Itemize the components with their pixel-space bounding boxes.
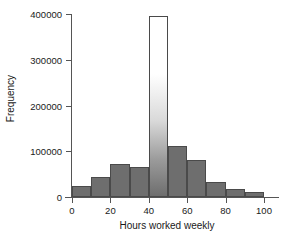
x-axis-tick-label: 20 [95,205,125,216]
x-axis-tick-mark [72,198,73,203]
histogram-bar [91,177,110,197]
x-axis-tick-mark [226,198,227,203]
histogram-bar [149,16,168,197]
histogram-bar [168,146,187,197]
y-axis-tick-label: 100000 [18,146,62,157]
histogram-bar [110,164,129,197]
histogram-figure: Frequency 0100000200000300000400000 0204… [0,0,286,236]
histogram-bar [130,167,149,197]
y-axis-title: Frequency [2,0,20,197]
histogram-bar [226,189,245,197]
x-axis-title: Hours worked weekly [60,220,274,231]
histogram-bar [187,160,206,197]
histogram-bar [72,186,91,197]
x-axis-tick-label: 80 [211,205,241,216]
x-axis-tick-label: 100 [249,205,279,216]
y-axis-title-text: Frequency [6,75,17,122]
x-axis-tick-mark [187,198,188,203]
y-axis-tick-label: 300000 [18,54,62,65]
x-axis-line [65,197,279,198]
y-axis-tick-label: 200000 [18,100,62,111]
histogram-bar [206,182,225,197]
x-axis-tick-mark [149,198,150,203]
x-axis-tick-mark [110,198,111,203]
x-axis-tick-label: 60 [172,205,202,216]
x-axis-tick-mark [264,198,265,203]
y-axis-line [71,14,72,198]
y-axis-tick-label: 400000 [18,9,62,20]
x-axis-tick-label: 40 [134,205,164,216]
y-axis-tick-label: 0 [18,192,62,203]
x-axis-tick-label: 0 [57,205,87,216]
